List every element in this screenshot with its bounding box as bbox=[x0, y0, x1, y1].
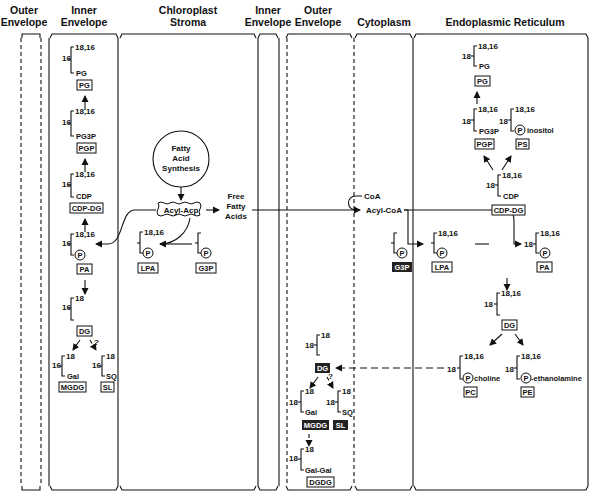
lipid-pg-chloroplast: 16 18,16 PG PG bbox=[62, 43, 96, 90]
inner-envelope-pathway: 16 18,16 PG PG 16 18,16 PG3P PGP 16 18,1… bbox=[52, 43, 117, 392]
svg-text:18: 18 bbox=[342, 387, 351, 396]
acyl-coa-label: Acyl-CoA bbox=[366, 206, 402, 215]
label-g3p-stroma: G3P bbox=[198, 264, 213, 273]
svg-text:Fatty: Fatty bbox=[171, 144, 191, 153]
label-cdpdg-er: CDP-DG bbox=[494, 206, 524, 215]
arrow-dg-to-pe bbox=[515, 334, 523, 345]
svg-text:Gal: Gal bbox=[67, 372, 79, 381]
svg-text:CDP: CDP bbox=[76, 192, 92, 201]
svg-text:18: 18 bbox=[462, 117, 471, 126]
arrow-acylacp-to-lpa bbox=[160, 218, 190, 244]
svg-text:18: 18 bbox=[321, 331, 330, 340]
svg-text:Synthesis: Synthesis bbox=[162, 164, 200, 173]
header-cytoplasm: Cytoplasm bbox=[357, 16, 411, 28]
svg-text:inositol: inositol bbox=[527, 126, 554, 135]
header-inner-envelope-left-2: Envelope bbox=[61, 16, 108, 28]
label-ps: PS bbox=[517, 140, 527, 149]
label-pe: PE bbox=[522, 388, 532, 397]
svg-text:Acid: Acid bbox=[172, 154, 189, 163]
svg-text:18,16: 18,16 bbox=[75, 43, 96, 52]
coa-label: CoA bbox=[364, 192, 381, 201]
svg-text:18: 18 bbox=[524, 240, 533, 249]
header-outer-envelope-right-2: Envelope bbox=[295, 16, 342, 28]
svg-text:18,16: 18,16 bbox=[464, 352, 485, 361]
lipid-ps-er: 18 18,16 P inositol PS bbox=[499, 105, 554, 149]
svg-text:-ethanolamine: -ethanolamine bbox=[531, 374, 582, 383]
svg-text:SQ: SQ bbox=[106, 372, 117, 381]
lipid-dg-outer: 18 18 DG bbox=[305, 331, 330, 373]
lipid-pc: 18 18,16 P choline PC bbox=[447, 352, 500, 397]
lipid-dg-er: 18 18,16 DG bbox=[484, 289, 522, 330]
lipid-pa-chloroplast: 16 18,16 P PA bbox=[62, 230, 96, 274]
svg-text:18: 18 bbox=[505, 365, 514, 374]
lipid-lpa-er: 18,16 P LPA bbox=[431, 229, 459, 272]
svg-text:18,16: 18,16 bbox=[438, 229, 459, 238]
lipid-g3p-cytoplasm: P G3P bbox=[391, 233, 412, 272]
label-lpa-stroma: LPA bbox=[141, 264, 156, 273]
arrow-cdpdg-to-pgp-er bbox=[484, 156, 493, 170]
svg-text:18,16: 18,16 bbox=[521, 352, 542, 361]
label-pg-er: PG bbox=[477, 77, 488, 86]
lipid-cdpdg-er: 18 18,16 CDP CDP-DG bbox=[486, 171, 525, 215]
svg-text:Free: Free bbox=[228, 192, 245, 201]
arrow-dg-to-pc bbox=[490, 334, 502, 345]
header-outer-envelope-left-1: Outer bbox=[10, 4, 38, 16]
svg-text:18: 18 bbox=[484, 300, 493, 309]
label-pgp-er: PGP bbox=[477, 140, 493, 149]
label-cdpdg: CDP-DG bbox=[72, 204, 102, 213]
coa-loop bbox=[349, 196, 363, 210]
lipid-lpa-stroma: 18,16 P LPA bbox=[137, 228, 165, 273]
svg-text:PG: PG bbox=[479, 62, 490, 71]
label-pgp: PGP bbox=[79, 144, 95, 153]
header-stroma-1: Chloroplast bbox=[159, 4, 218, 16]
svg-text:18: 18 bbox=[66, 352, 75, 361]
lipid-pgp-chloroplast: 16 18,16 PG3P PGP bbox=[62, 107, 96, 153]
label-mgdg: MGDG bbox=[61, 383, 84, 392]
svg-text:18: 18 bbox=[447, 365, 456, 374]
header-stroma-2: Stroma bbox=[170, 16, 206, 28]
svg-text:P: P bbox=[399, 249, 404, 258]
label-sl-outer: SL bbox=[336, 421, 346, 430]
label-pa: PA bbox=[80, 265, 90, 274]
svg-text:Gal-Gal: Gal-Gal bbox=[305, 466, 332, 475]
label-g3p-cytoplasm: G3P bbox=[394, 263, 409, 272]
lipid-dg-chloroplast: 16 18 DG bbox=[62, 294, 92, 336]
lipid-pathway-diagram: Outer Envelope Inner Envelope Chloroplas… bbox=[0, 0, 603, 498]
arrow-cdpdg-to-ps bbox=[502, 156, 511, 170]
svg-text:18: 18 bbox=[462, 52, 471, 61]
svg-text:P: P bbox=[77, 251, 82, 260]
lipid-sl-outer: 18 18 SQ SL bbox=[326, 387, 353, 430]
arrow-acylacp-to-pa bbox=[96, 210, 156, 244]
lipid-mgdg-chloroplast: 16 18 Gal MGDG bbox=[52, 352, 86, 392]
label-sl: SL bbox=[103, 383, 113, 392]
header-inner-envelope-left-1: Inner bbox=[71, 4, 97, 16]
svg-text:P: P bbox=[439, 249, 444, 258]
lipid-sl-chloroplast: 16 18 SQ SL bbox=[92, 352, 117, 392]
svg-text:18: 18 bbox=[305, 387, 314, 396]
svg-text:18: 18 bbox=[106, 352, 115, 361]
membrane-lines bbox=[21, 38, 588, 486]
svg-text:PG3P: PG3P bbox=[479, 127, 499, 136]
svg-text:P: P bbox=[145, 249, 150, 258]
svg-text:SQ: SQ bbox=[342, 408, 353, 417]
label-dg-er: DG bbox=[504, 321, 515, 330]
svg-text:P: P bbox=[523, 374, 528, 383]
svg-text:18,16: 18,16 bbox=[478, 105, 499, 114]
svg-text:PG3P: PG3P bbox=[76, 132, 96, 141]
label-pa-er: PA bbox=[540, 263, 550, 272]
svg-text:18,16: 18,16 bbox=[75, 170, 96, 179]
label-dgdg: DGDG bbox=[309, 478, 332, 487]
header-outer-envelope-left-2: Envelope bbox=[1, 16, 48, 28]
svg-text:P: P bbox=[517, 126, 522, 135]
svg-text:Gal: Gal bbox=[305, 408, 317, 417]
svg-text:P: P bbox=[203, 249, 208, 258]
svg-text:CDP: CDP bbox=[503, 192, 519, 201]
label-mgdg-outer: MGDG bbox=[304, 421, 327, 430]
svg-text:18: 18 bbox=[305, 341, 314, 350]
lipid-pa-er: 18 18,16 P PA bbox=[524, 229, 561, 272]
outer-envelope-pathway: 18 18 DG ? 18 18 Gal MGDG 18 18 SQ SL bbox=[289, 331, 353, 487]
header-outer-envelope-right-1: Outer bbox=[304, 4, 332, 16]
svg-text:18,16: 18,16 bbox=[478, 42, 499, 51]
lipid-cdpdg-chloroplast: 16 18,16 CDP CDP-DG bbox=[62, 170, 103, 213]
svg-text:18,16: 18,16 bbox=[144, 228, 165, 237]
